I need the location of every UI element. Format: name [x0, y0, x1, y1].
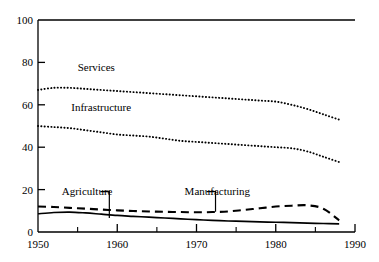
series-label-infrastructure: Infrastructure [71, 101, 131, 113]
series-label-services: Services [78, 61, 115, 73]
x-tick-label: 1970 [186, 238, 209, 250]
y-tick-label: 100 [17, 14, 34, 26]
x-tick-label: 1950 [27, 238, 50, 250]
series-label-agriculture: Agriculture [62, 185, 113, 197]
y-tick-label: 80 [22, 56, 34, 68]
y-tick-label: 20 [22, 184, 34, 196]
chart-container: 020406080100 19501960197019801990 Servic… [0, 0, 379, 262]
y-tick-label: 60 [22, 99, 34, 111]
x-tick-label: 1980 [265, 238, 288, 250]
x-tick-label: 1960 [106, 238, 129, 250]
line-chart: 020406080100 19501960197019801990 Servic… [0, 0, 379, 262]
x-tick-label: 1990 [344, 238, 367, 250]
y-tick-label: 0 [28, 226, 34, 238]
y-tick-label: 40 [22, 141, 34, 153]
series-label-manufacturing: Manufacturing [185, 185, 251, 197]
